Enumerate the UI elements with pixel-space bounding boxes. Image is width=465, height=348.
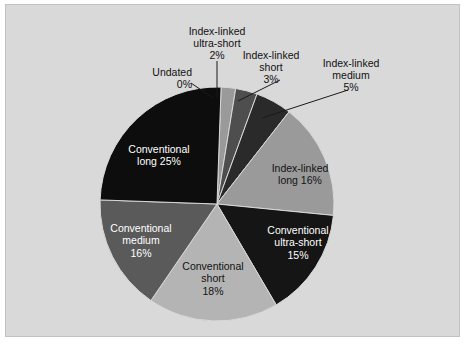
slice-label-conventional-ultra-short-line2: ultra-short [274, 236, 321, 248]
slice-label-conventional-long-line1: Conventional [128, 143, 189, 155]
callout-index-linked-medium-percent: 5% [311, 81, 391, 93]
slice-label-conventional-ultra-short-line1: Conventional [267, 224, 328, 236]
pie-chart-figure: Undated 0% Index-linked ultra-short 2% I… [5, 4, 460, 337]
callout-undated-percent: 0% [130, 78, 192, 90]
slice-label-conventional-medium-line3: 16% [130, 247, 151, 259]
slice-label-index-linked-long: Index-linked long 16% [250, 162, 350, 187]
callout-index-linked-ultra-short-label-line2: ultra-short [163, 37, 271, 49]
callout-index-linked-medium-label-line1: Index-linked [323, 57, 380, 69]
callout-index-linked-medium-label-line2: medium [311, 69, 391, 81]
callout-index-linked-medium: Index-linked medium 5% [311, 57, 391, 94]
chart-screenshot: Undated 0% Index-linked ultra-short 2% I… [0, 0, 465, 348]
callout-index-linked-short: Index-linked short 3% [233, 49, 309, 86]
callout-index-linked-short-label-line2: short [233, 61, 309, 73]
slice-label-conventional-medium-line2: medium [122, 234, 159, 246]
slice-label-conventional-short-line1: Conventional [182, 260, 243, 272]
slice-label-conventional-medium: Conventional medium 16% [89, 222, 193, 259]
slice-label-index-linked-long-line1: Index-linked [272, 162, 329, 174]
slice-label-conventional-long: Conventional long 25% [103, 143, 215, 168]
callout-undated-label: Undated [152, 66, 192, 78]
slice-label-conventional-medium-line1: Conventional [110, 222, 171, 234]
callout-undated: Undated 0% [130, 66, 192, 90]
callout-index-linked-short-label-line1: Index-linked [243, 49, 300, 61]
slice-label-conventional-short-line3: 18% [202, 285, 223, 297]
slice-label-conventional-ultra-short: Conventional ultra-short 15% [246, 224, 350, 261]
callout-index-linked-ultra-short-label-line1: Index-linked [189, 25, 246, 37]
slice-label-conventional-short: Conventional short 18% [161, 260, 265, 297]
slice-label-conventional-short-line2: short [201, 272, 224, 284]
slice-label-conventional-ultra-short-line3: 15% [287, 249, 308, 261]
slice-label-index-linked-long-line2: long 16% [278, 174, 322, 186]
slice-label-conventional-long-line2: long 25% [137, 155, 181, 167]
callout-index-linked-short-percent: 3% [233, 73, 309, 85]
